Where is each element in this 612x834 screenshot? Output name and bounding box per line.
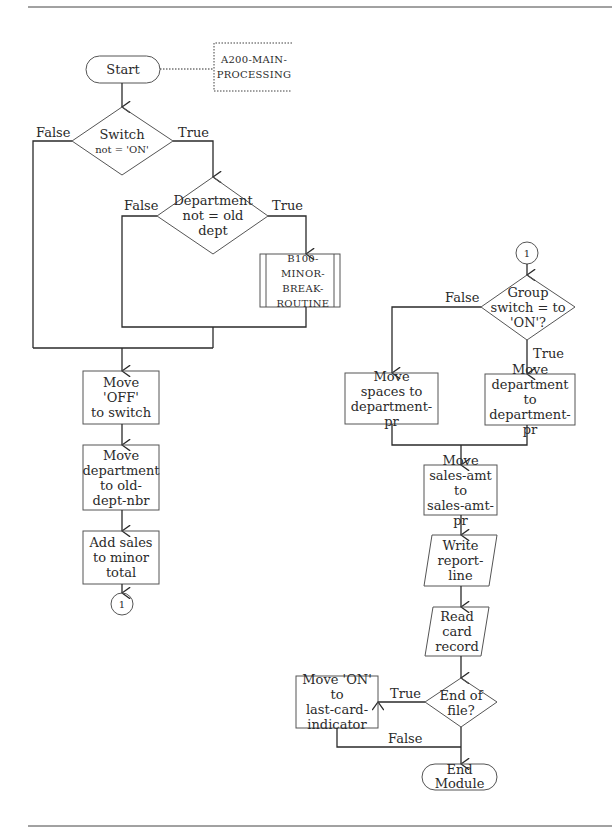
process-move-off-text: Move 'OFF' to switch	[83, 371, 159, 424]
start-label: Start	[86, 56, 160, 83]
end-label: End Module	[422, 762, 497, 792]
department-true-label: True	[272, 198, 303, 213]
decision-department-text: Department not = old dept	[163, 190, 263, 240]
decision-switch-line2: not = 'ON'	[95, 142, 149, 157]
process-add-sales-text: Add sales to minor total	[83, 531, 159, 584]
group-false-label: False	[445, 290, 479, 305]
decision-eof-text: End of file?	[431, 688, 491, 718]
eof-true-label: True	[390, 686, 421, 701]
connector-in-label: 1	[516, 242, 538, 264]
annotation-text: A200-MAIN- PROCESSING	[216, 47, 292, 87]
process-move-on-text: Move 'ON' to last-card- indicator	[296, 676, 378, 728]
switch-true-label: True	[178, 125, 209, 140]
process-move-department-pr-text: Move department to department-pr	[485, 374, 575, 425]
department-false-label: False	[124, 198, 158, 213]
process-move-spaces-text: Move spaces to department-pr	[345, 373, 438, 424]
decision-switch-text: Switch not = 'ON'	[82, 124, 162, 160]
subroutine-text: B100-MINOR- BREAK- ROUTINE	[266, 254, 340, 307]
eof-false-label: False	[388, 731, 422, 746]
io-read-text: Read card record	[425, 607, 489, 656]
group-true-label: True	[533, 346, 564, 361]
decision-switch-line1: Switch	[99, 127, 144, 142]
connector-out-label: 1	[111, 593, 133, 615]
io-write-text: Write report- line	[428, 535, 493, 586]
decision-group-switch-text: Group switch = to 'ON'?	[487, 283, 569, 331]
switch-false-label: False	[36, 125, 70, 140]
process-move-sales-amt-text: Move sales-amt to sales-amt-pr	[424, 465, 497, 515]
process-move-department-text: Move department to old- dept-nbr	[83, 445, 159, 510]
